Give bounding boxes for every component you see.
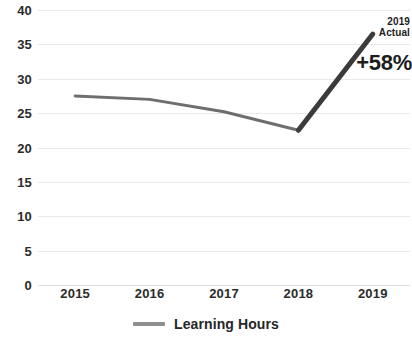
- x-tick-label-2017: 2017: [209, 286, 239, 301]
- x-tick-label-2019: 2019: [358, 286, 388, 301]
- y-tick-label-0: 0: [25, 278, 32, 293]
- annotation-2019-actual: 2019 Actual: [379, 16, 410, 38]
- line-learning-hours: [75, 96, 298, 130]
- learning-hours-line-chart: 0510152025303540 20152016201720182019 20…: [0, 0, 412, 344]
- y-tick-label-10: 10: [17, 209, 32, 224]
- x-tick-label-2015: 2015: [60, 286, 90, 301]
- annotation-actual-line2: Actual: [379, 27, 410, 38]
- x-tick-label-2018: 2018: [284, 286, 314, 301]
- y-tick-label-35: 35: [17, 37, 32, 52]
- y-tick-label-20: 20: [17, 140, 32, 155]
- legend-swatch-learning-hours: [133, 322, 165, 326]
- y-axis: 0510152025303540: [0, 10, 32, 285]
- y-tick-label-30: 30: [17, 71, 32, 86]
- y-tick-label-25: 25: [17, 106, 32, 121]
- chart-legend: Learning Hours: [0, 316, 412, 332]
- series-layer: [38, 10, 410, 285]
- x-axis: 20152016201720182019: [38, 286, 410, 312]
- legend-label-learning-hours: Learning Hours: [174, 316, 279, 332]
- y-tick-label-5: 5: [25, 243, 32, 258]
- plot-area: [38, 10, 410, 285]
- line-highlight-segment: [298, 34, 372, 130]
- annotation-actual-line1: 2019: [379, 16, 410, 27]
- y-tick-label-40: 40: [17, 3, 32, 18]
- y-tick-label-15: 15: [17, 174, 32, 189]
- x-tick-label-2016: 2016: [135, 286, 165, 301]
- annotation-growth-percent: +58%: [356, 52, 412, 74]
